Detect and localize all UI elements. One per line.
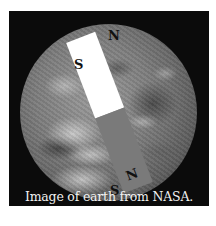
magnet-south-label: S xyxy=(74,58,83,71)
figure-caption: Image of earth from NASA. xyxy=(9,189,209,204)
geographic-north-label: N xyxy=(108,29,120,42)
figure-frame: S N N S Image of earth from NASA. xyxy=(9,11,209,206)
